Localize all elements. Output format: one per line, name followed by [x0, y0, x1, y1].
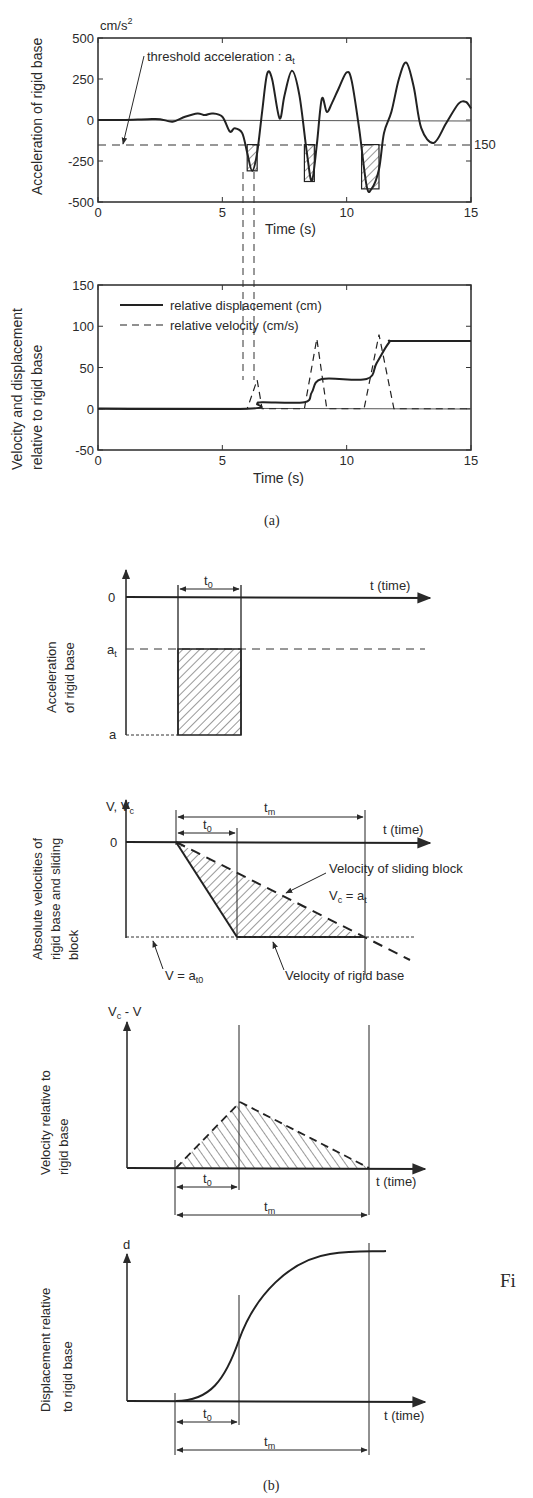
hatched-relative-velocity-triangle	[176, 1102, 369, 1168]
panel1-ylabel-line1: Acceleration	[44, 641, 59, 713]
relative-ylabel-line1: Velocity and displacement	[9, 308, 25, 470]
schematic-displacement-panel: Displacement relative to rigid base d t …	[38, 1237, 425, 1455]
xtick-label: 15	[464, 205, 478, 220]
panel2-ylabel-line1: Absolute velocities of	[30, 837, 45, 960]
tm-label: tm	[264, 800, 275, 817]
y-zero-label: 0	[110, 835, 117, 850]
xtick-label: 10	[339, 205, 353, 220]
sliding-block-label: Velocity of sliding block	[329, 861, 463, 876]
legend: relative displacement (cm) relative velo…	[120, 298, 322, 333]
hatched-pulse-region	[178, 649, 241, 735]
relative-motion-chart: Velocity and displacement relative to ri…	[9, 278, 478, 486]
legend-displacement: relative displacement (cm)	[170, 298, 322, 313]
ytick-label: 0	[87, 113, 94, 128]
acceleration-unit: cm/s2	[100, 16, 132, 33]
rigid-base-label: Velocity of rigid base	[285, 968, 404, 983]
x-axis-label: t (time)	[370, 578, 410, 593]
panel4-yaxis-label: d	[123, 1237, 130, 1252]
panel4-ylabel-line2: to rigid base	[60, 1341, 75, 1412]
displacement-curve	[176, 1251, 386, 1401]
panel2-ylabel-line3: block	[66, 929, 81, 960]
ytick-label: 0	[87, 402, 94, 417]
rigid-base-pointer-icon	[273, 942, 284, 970]
panel2-yaxis-label: V, Vc	[106, 799, 134, 816]
t0-label: t0	[203, 817, 212, 834]
ytick-label: -50	[75, 443, 94, 458]
relative-ylabel-line2: relative to rigid base	[29, 344, 45, 470]
panel4-ylabel-line1: Displacement relative	[38, 1288, 53, 1412]
caption-a: (a)	[264, 513, 280, 529]
velocity-series-line	[98, 335, 471, 409]
panel3-yaxis-label: Vc - V	[108, 1004, 142, 1021]
caption-b: (b)	[263, 1478, 280, 1494]
sliding-block-velocity-line	[176, 842, 410, 960]
x-axis-arrow	[126, 597, 430, 598]
ytick-label: 50	[80, 361, 94, 376]
t0-label: t0	[204, 573, 213, 590]
xtick-label: 5	[219, 453, 226, 468]
panel3-ylabel-line1: Velocity relative to	[38, 1070, 53, 1175]
base-velocity-equation: V = at0	[165, 968, 203, 985]
legend-velocity: relative velocity (cm/s)	[170, 318, 299, 333]
schematic-relative-velocity-panel: Velocity relative to rigid base Vc - V t…	[38, 1004, 425, 1216]
xtick-label: 0	[94, 453, 101, 468]
ytick-label: -250	[68, 154, 94, 169]
ytick-label: 250	[72, 72, 94, 87]
displacement-series-line	[98, 341, 471, 409]
acceleration-ylabel: Acceleration of rigid base	[29, 38, 45, 195]
y-at-label: at	[107, 642, 117, 659]
ytick-label: -500	[68, 195, 94, 210]
threshold-label: threshold acceleration : at	[147, 49, 295, 66]
sliding-block-equation: Vc = at	[329, 888, 367, 905]
xtick-label: 10	[339, 453, 353, 468]
t0-label: t0	[203, 1171, 212, 1188]
threshold-arrow-icon	[123, 56, 144, 144]
x-axis-label: t (time)	[384, 1408, 424, 1423]
ytick-label: 500	[72, 31, 94, 46]
y-zero-label: 0	[108, 590, 115, 605]
sliding-block-pointer-icon	[286, 873, 326, 893]
acceleration-xlabel: Time (s)	[265, 221, 316, 237]
relative-xlabel: Time (s)	[253, 470, 304, 486]
ytick-label: 150	[72, 278, 94, 293]
t0-label: t0	[203, 1406, 212, 1423]
side-text-fragment: Fi	[500, 1270, 516, 1291]
xtick-label: 15	[464, 453, 478, 468]
figure-canvas: Acceleration of rigid base cm/s2 5002500…	[0, 0, 533, 1498]
tm-label: tm	[264, 1434, 275, 1451]
threshold-value-label: 150	[474, 137, 496, 152]
y-a-label: a	[109, 727, 117, 742]
panel2-ylabel-line2: rigid base and sliding	[48, 838, 63, 960]
exceedance-hatched-regions	[247, 145, 379, 189]
panel3-ylabel-line2: rigid base	[56, 1119, 71, 1175]
zero-line	[98, 120, 471, 121]
base-equation-pointer-icon	[153, 941, 163, 969]
x-axis-label: t (time)	[376, 1174, 416, 1189]
panel1-ylabel-line2: of rigid base	[62, 642, 77, 713]
x-axis-label: t (time)	[383, 822, 423, 837]
schematic-absolute-velocity-panel: Absolute velocities of rigid base and sl…	[30, 799, 463, 985]
schematic-acceleration-panel: Acceleration of rigid base 0 at a t (tim…	[44, 570, 430, 742]
xtick-label: 0	[94, 205, 101, 220]
ytick-label: 100	[72, 319, 94, 334]
acceleration-series-line	[98, 62, 471, 192]
xtick-label: 5	[219, 205, 226, 220]
tm-label: tm	[264, 1199, 275, 1216]
